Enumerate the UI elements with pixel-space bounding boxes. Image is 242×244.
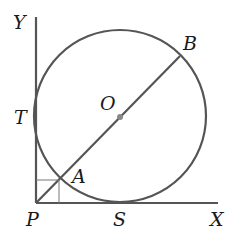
label-a: A [70, 165, 86, 187]
label-t: T [14, 106, 28, 128]
label-x: X [208, 208, 225, 230]
label-b: B [182, 32, 197, 54]
label-o: O [100, 92, 116, 114]
label-s: S [113, 208, 126, 230]
label-p: P [25, 208, 40, 230]
label-y: Y [13, 11, 28, 33]
center-point-o [117, 114, 123, 120]
geometry-diagram: Y T O B A P S X [0, 0, 242, 244]
line-pb [36, 56, 180, 203]
